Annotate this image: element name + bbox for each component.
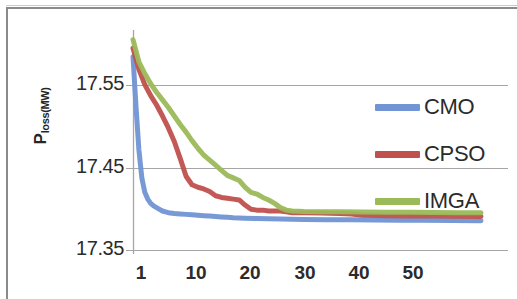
- legend-item-cmo[interactable]: CMO: [375, 96, 474, 118]
- chart-figure: Ploss(MW) 17.3517.4517.55 11020304050 CM…: [0, 0, 517, 299]
- legend-label-cpso: CPSO: [424, 143, 485, 165]
- legend-item-cpso[interactable]: CPSO: [375, 143, 485, 165]
- legend-label-cmo: CMO: [424, 96, 474, 118]
- x-tick-label-40: 40: [335, 262, 383, 284]
- x-tick-label-10: 10: [172, 262, 220, 284]
- x-tick-label-1: 1: [117, 262, 165, 284]
- x-tick-label-20: 20: [226, 262, 274, 284]
- legend-label-imga: IMGA: [424, 190, 479, 212]
- x-tick-label-30: 30: [281, 262, 329, 284]
- y-tick-label-17.35: 17.35: [38, 237, 124, 260]
- x-tick-label-50: 50: [389, 262, 437, 284]
- legend-swatch-cmo: [375, 104, 420, 111]
- series-line-imga: [133, 40, 481, 213]
- y-axis-title-base: P: [31, 133, 50, 144]
- legend-swatch-cpso: [375, 151, 420, 158]
- legend-swatch-imga: [375, 198, 420, 205]
- y-tick-label-17.45: 17.45: [38, 155, 124, 178]
- y-tick-label-17.55: 17.55: [38, 72, 124, 95]
- legend-item-imga[interactable]: IMGA: [375, 190, 479, 212]
